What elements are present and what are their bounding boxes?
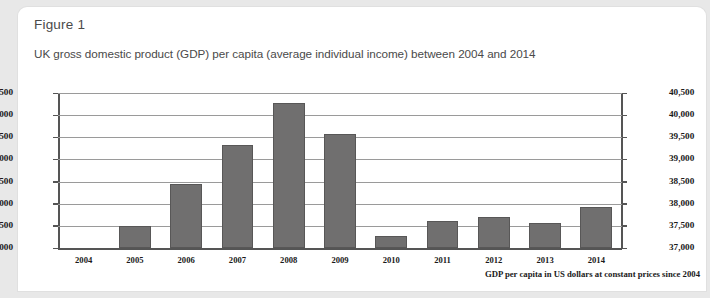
y-axis-label-right: 37,000 xyxy=(669,242,694,252)
y-axis-tick-left xyxy=(53,225,58,227)
x-axis-label-2005: 2005 xyxy=(109,255,160,265)
x-axis-label-2009: 2009 xyxy=(314,255,365,265)
y-axis-label-right: 40,500 xyxy=(669,87,694,97)
y-axis-label-left: 38,500 xyxy=(0,176,13,186)
y-axis-label-right: 39,000 xyxy=(669,153,694,163)
y-axis-tick-right xyxy=(622,181,627,183)
x-axis-label-2012: 2012 xyxy=(468,255,519,265)
x-axis-label-2014: 2014 xyxy=(571,255,622,265)
bar-2006 xyxy=(170,184,202,248)
bar-2013 xyxy=(529,223,561,248)
figure-label: Figure 1 xyxy=(34,17,85,32)
x-axis-label-2008: 2008 xyxy=(263,255,314,265)
x-axis-label-2010: 2010 xyxy=(366,255,417,265)
x-axis-label-2013: 2013 xyxy=(519,255,570,265)
bar-2008 xyxy=(273,103,305,248)
x-axis-label-2006: 2006 xyxy=(161,255,212,265)
gridline xyxy=(58,115,622,116)
y-axis-label-left: 37,500 xyxy=(0,220,13,230)
y-axis-tick-left xyxy=(53,248,58,250)
y-axis-tick-left xyxy=(53,115,58,117)
y-axis-tick-right xyxy=(622,115,627,117)
y-axis-tick-left xyxy=(53,203,58,205)
bar-2014 xyxy=(580,207,612,248)
x-axis-line xyxy=(58,248,622,250)
bar-2005 xyxy=(119,226,151,248)
y-axis-tick-right xyxy=(622,159,627,161)
y-axis-tick-right xyxy=(622,93,627,95)
chart-title: UK gross domestic product (GDP) per capi… xyxy=(34,47,536,60)
y-axis-label-left: 38,000 xyxy=(0,198,13,208)
y-axis-label-right: 38,000 xyxy=(669,198,694,208)
y-axis-tick-left xyxy=(53,137,58,139)
chart-footnote: GDP per capita in US dollars at constant… xyxy=(485,269,700,279)
y-axis-tick-right xyxy=(622,137,627,139)
x-axis-label-2011: 2011 xyxy=(417,255,468,265)
x-axis-label-2007: 2007 xyxy=(212,255,263,265)
bar-2011 xyxy=(427,221,459,248)
y-axis-label-left: 39,000 xyxy=(0,153,13,163)
chart-canvas: 40,50040,00039,50039,00038,50038,00037,5… xyxy=(58,93,622,248)
y-axis-label-left: 39,500 xyxy=(0,131,13,141)
y-axis-tick-right xyxy=(622,225,627,227)
figure-card: Figure 1 UK gross domestic product (GDP)… xyxy=(18,7,706,291)
y-axis-tick-left xyxy=(53,181,58,183)
y-axis-label-left: 37,000 xyxy=(0,242,13,252)
y-axis-tick-right xyxy=(622,203,627,205)
y-axis-tick-right xyxy=(622,248,627,250)
y-axis-tick-left xyxy=(53,159,58,161)
bar-2010 xyxy=(375,236,407,248)
bar-2012 xyxy=(478,217,510,248)
y-axis-label-left: 40,500 xyxy=(0,87,13,97)
y-axis-label-right: 37,500 xyxy=(669,220,694,230)
bar-2009 xyxy=(324,134,356,248)
x-axis-label-2004: 2004 xyxy=(58,255,109,265)
y-axis-label-right: 40,000 xyxy=(669,109,694,119)
gridline xyxy=(58,93,622,94)
y-axis-label-right: 38,500 xyxy=(669,176,694,186)
chart-plot-area: 40,50040,00039,50039,00038,50038,00037,5… xyxy=(18,77,706,291)
y-axis-label-left: 40,000 xyxy=(0,109,13,119)
bar-2007 xyxy=(222,145,254,248)
y-axis-label-right: 39,500 xyxy=(669,131,694,141)
y-axis-tick-left xyxy=(53,93,58,95)
